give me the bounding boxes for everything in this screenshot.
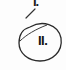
pencil-marks [0,0,66,70]
item-label-ii-circled: II. [38,33,47,48]
document-fragment: I. II. [0,0,66,70]
item-label-i: I. [33,0,38,9]
diagonal-stroke [26,9,35,18]
